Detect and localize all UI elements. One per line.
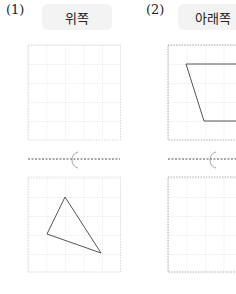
rotate-arrow-icon-2 — [210, 152, 216, 168]
rotate-arrow-icon-1 — [72, 152, 78, 168]
grid-2-bottom — [168, 177, 236, 272]
grid-1-top — [28, 45, 121, 140]
figures — [0, 0, 236, 294]
grid-1-bottom — [28, 177, 121, 272]
grid-2-top — [168, 45, 236, 140]
